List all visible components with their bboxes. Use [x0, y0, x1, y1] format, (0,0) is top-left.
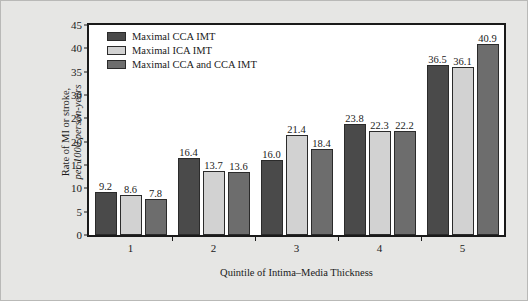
legend-label: Maximal ICA IMT [132, 45, 212, 56]
x-axis-title: Quintile of Intima–Media Thickness [87, 267, 506, 278]
legend-swatch [107, 46, 126, 55]
bar: 7.8 [145, 199, 167, 235]
y-axis-tick-label: 20 [43, 136, 89, 148]
bar: 13.7 [203, 171, 225, 235]
bar: 9.2 [95, 192, 117, 235]
legend-label: Maximal CCA IMT [132, 31, 215, 42]
bar-group: 23.822.322.2 [338, 25, 421, 235]
bar-value-label: 18.4 [312, 138, 330, 149]
bar-value-label: 36.5 [428, 54, 446, 65]
legend-item: Maximal ICA IMT [107, 44, 257, 56]
bar: 22.3 [369, 131, 391, 235]
bar: 36.1 [452, 67, 474, 235]
y-axis-tick-label: 0 [43, 229, 89, 241]
x-axis-tick-label: 2 [211, 242, 217, 254]
legend-swatch [107, 60, 126, 69]
bar: 18.4 [311, 149, 333, 235]
bar-value-label: 22.2 [395, 120, 413, 131]
chart-legend: Maximal CCA IMTMaximal ICA IMTMaximal CC… [107, 30, 257, 72]
x-axis-tick-label: 1 [128, 242, 134, 254]
bar: 23.8 [344, 124, 366, 235]
bar-value-label: 36.1 [453, 56, 471, 67]
x-axis-tick-mark [421, 235, 422, 241]
legend-item: Maximal CCA IMT [107, 30, 257, 42]
bar-group: 16.021.418.4 [255, 25, 338, 235]
bar: 16.0 [261, 160, 283, 235]
x-axis-tick-mark [338, 235, 339, 241]
bar: 40.9 [477, 44, 499, 235]
figure-container: Rate of MI or stroke, per 1000 person-ye… [0, 0, 528, 301]
legend-swatch [107, 32, 126, 41]
y-axis-tick-label: 5 [43, 206, 89, 218]
y-axis-tick-label: 15 [43, 159, 89, 171]
y-axis-tick-label: 40 [43, 42, 89, 54]
bar-value-label: 16.4 [179, 147, 197, 158]
legend-item: Maximal CCA and CCA IMT [107, 58, 257, 70]
bar-value-label: 13.7 [204, 160, 222, 171]
plot-frame: Rate of MI or stroke, per 1000 person-ye… [87, 23, 506, 237]
y-axis-tick-label: 45 [43, 19, 89, 31]
legend-label: Maximal CCA and CCA IMT [132, 59, 257, 70]
bar: 16.4 [178, 158, 200, 235]
y-axis-tick-label: 25 [43, 112, 89, 124]
bar-value-label: 7.8 [149, 188, 162, 199]
bar-value-label: 23.8 [345, 113, 363, 124]
bar: 8.6 [120, 195, 142, 235]
y-axis-tick-label: 30 [43, 89, 89, 101]
bar-value-label: 40.9 [478, 33, 496, 44]
bar-group: 36.536.140.9 [421, 25, 504, 235]
bar-value-label: 9.2 [99, 181, 112, 192]
bar: 22.2 [394, 131, 416, 235]
bar-value-label: 13.6 [229, 161, 247, 172]
bar-value-label: 8.6 [124, 184, 137, 195]
bar: 21.4 [286, 135, 308, 235]
x-axis-tick-mark [172, 235, 173, 241]
y-axis-tick-label: 10 [43, 182, 89, 194]
y-axis-tick-label: 35 [43, 66, 89, 78]
x-axis-tick-mark [255, 235, 256, 241]
bar: 13.6 [228, 172, 250, 235]
bar-value-label: 16.0 [262, 149, 280, 160]
x-axis-tick-label: 4 [377, 242, 383, 254]
x-axis-tick-label: 3 [294, 242, 300, 254]
x-axis-tick-label: 5 [460, 242, 466, 254]
bar-value-label: 21.4 [287, 124, 305, 135]
bar: 36.5 [427, 65, 449, 235]
bar-value-label: 22.3 [370, 120, 388, 131]
